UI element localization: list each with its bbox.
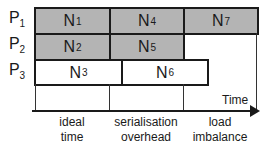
category-line1: ideal: [35, 115, 109, 130]
time-axis: [32, 110, 252, 112]
category-line2: imbalance: [183, 130, 257, 145]
category-line1: serialisation: [109, 115, 183, 130]
category-serialisation-overhead: serialisation overhead: [109, 115, 183, 145]
guide-line-start: [35, 84, 36, 111]
processor-letter: P: [9, 61, 20, 78]
processor-index: 2: [20, 44, 26, 55]
task-n5: N5: [109, 33, 185, 61]
category-line2: overhead: [109, 130, 183, 145]
task-index: 3: [82, 67, 88, 78]
category-line2: time: [35, 130, 109, 145]
processor-letter: P: [9, 9, 20, 26]
processor-index: 3: [20, 70, 26, 81]
category-line1: load: [183, 115, 257, 130]
task-index: 5: [151, 42, 157, 53]
task-n1: N1: [34, 7, 111, 35]
task-letter: N: [212, 12, 224, 30]
task-letter: N: [69, 64, 81, 82]
guide-line-serial: [183, 84, 184, 111]
processor-index: 1: [20, 18, 26, 29]
task-letter: N: [138, 38, 150, 56]
task-index: 1: [76, 16, 82, 27]
task-letter: N: [156, 64, 168, 82]
time-axis-label: Time: [222, 93, 248, 107]
task-n4: N4: [109, 7, 185, 35]
task-letter: N: [63, 38, 75, 56]
category-load-imbalance: load imbalance: [183, 115, 257, 145]
task-n3: N3: [34, 59, 123, 86]
task-letter: N: [63, 12, 75, 30]
processor-label-p2: P2: [2, 36, 32, 58]
guide-line-ideal: [109, 84, 110, 111]
task-letter: N: [138, 12, 150, 30]
task-n7: N7: [183, 7, 259, 35]
task-index: 4: [151, 16, 157, 27]
task-index: 2: [76, 42, 82, 53]
task-n2: N2: [34, 33, 111, 61]
processor-label-p3: P3: [2, 62, 32, 84]
category-ideal-time: ideal time: [35, 115, 109, 145]
processor-label-p1: P1: [2, 10, 32, 32]
processor-letter: P: [9, 35, 20, 52]
task-n6: N6: [121, 59, 209, 86]
task-index: 6: [169, 67, 175, 78]
guide-line-end: [256, 33, 257, 111]
task-index: 7: [225, 16, 231, 27]
